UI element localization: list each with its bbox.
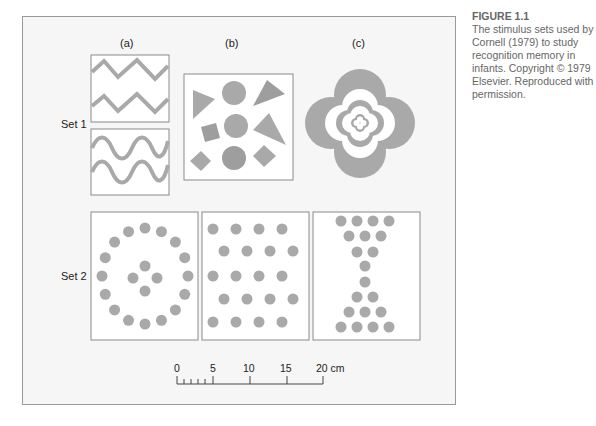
dot-shape xyxy=(156,226,167,237)
dot-shape xyxy=(254,271,265,282)
dot-shape xyxy=(384,216,395,227)
scale-tick-label: 15 xyxy=(280,362,292,374)
dot-shape xyxy=(360,277,371,288)
dot-shape xyxy=(100,252,111,263)
circle-shape xyxy=(224,114,248,138)
dot-shape xyxy=(97,271,108,282)
dot-shape xyxy=(123,226,134,237)
dot-shape xyxy=(254,224,265,235)
dot-shape xyxy=(109,304,120,315)
dot-shape xyxy=(242,294,253,305)
dot-shape xyxy=(277,271,288,282)
dot-shape xyxy=(140,319,151,330)
dot-shape xyxy=(265,246,276,257)
dot-shape xyxy=(152,273,163,284)
dot-shape xyxy=(360,261,371,272)
dot-shape xyxy=(128,273,139,284)
dot-shape xyxy=(140,261,151,272)
dot-shape xyxy=(344,231,355,242)
dot-shape xyxy=(352,247,363,258)
dot-shape xyxy=(140,223,151,234)
dot-shape xyxy=(336,216,347,227)
dot-shape xyxy=(170,237,181,248)
dot-shape xyxy=(265,294,276,305)
scale-tick-label: 20 cm xyxy=(316,362,345,374)
dot-shape xyxy=(156,315,167,326)
dot-shape xyxy=(179,289,190,300)
dot-shape xyxy=(352,216,363,227)
dot-shape xyxy=(219,246,230,257)
figure-caption: FIGURE 1.1 The stimulus sets used by Cor… xyxy=(472,10,594,101)
dot-shape xyxy=(368,322,379,333)
dot-shape xyxy=(368,247,379,258)
dot-shape xyxy=(208,271,219,282)
dot-shape xyxy=(208,317,219,328)
dot-shape xyxy=(277,317,288,328)
scale-tick-label: 10 xyxy=(243,362,255,374)
dot-shape xyxy=(352,292,363,303)
dot-shape xyxy=(170,304,181,315)
dot-shape xyxy=(254,317,265,328)
dot-shape xyxy=(352,322,363,333)
dot-shape xyxy=(360,231,371,242)
dot-shape xyxy=(344,307,355,318)
dot-shape xyxy=(140,286,151,297)
dot-shape xyxy=(336,322,347,333)
dot-shape xyxy=(368,292,379,303)
dot-shape xyxy=(277,224,288,235)
dot-shape xyxy=(123,315,134,326)
dot-shape xyxy=(231,224,242,235)
dot-shape xyxy=(100,289,111,300)
scale-tick-label: 5 xyxy=(210,362,216,374)
dot-shape xyxy=(179,252,190,263)
dot-shape xyxy=(288,294,299,305)
dot-shape xyxy=(242,246,253,257)
dot-shape xyxy=(208,224,219,235)
dot-shape xyxy=(376,307,387,318)
dot-shape xyxy=(219,294,230,305)
dot-shape xyxy=(231,317,242,328)
circle-shape xyxy=(222,146,246,170)
quatrefoil-figure xyxy=(305,69,415,178)
dot-shape xyxy=(384,322,395,333)
dot-shape xyxy=(368,216,379,227)
dot-shape xyxy=(109,237,120,248)
circle-shape xyxy=(222,81,246,105)
dot-shape xyxy=(288,246,299,257)
scale-bar xyxy=(177,376,323,384)
dot-shape xyxy=(376,231,387,242)
scale-tick-label: 0 xyxy=(174,362,180,374)
dot-shape xyxy=(183,271,194,282)
caption-text: The stimulus sets used by Cornell (1979)… xyxy=(472,23,594,101)
dot-shape xyxy=(360,307,371,318)
figure-label: FIGURE 1.1 xyxy=(472,10,594,23)
dot-shape xyxy=(231,271,242,282)
